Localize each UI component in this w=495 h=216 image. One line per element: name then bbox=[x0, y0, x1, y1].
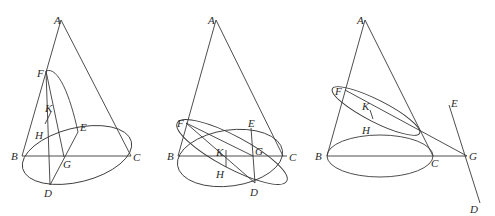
label-F: F bbox=[36, 67, 44, 79]
label-D: D bbox=[43, 187, 52, 199]
label-D: D bbox=[249, 186, 258, 198]
section-ellipse bbox=[170, 109, 295, 195]
label-G: G bbox=[255, 145, 263, 157]
label-F: F bbox=[334, 85, 342, 97]
label-E: E bbox=[450, 97, 458, 109]
label-E: E bbox=[79, 121, 87, 133]
label-C: C bbox=[133, 151, 141, 163]
label-E: E bbox=[247, 117, 255, 129]
label-C: C bbox=[289, 151, 297, 163]
cone-side-AC bbox=[365, 20, 433, 156]
label-D: D bbox=[469, 203, 478, 215]
segment-K bbox=[370, 110, 373, 119]
panel-2-ellipse: A B C D E F G H K bbox=[167, 14, 297, 198]
label-B: B bbox=[11, 150, 18, 162]
label-H: H bbox=[361, 124, 371, 136]
conic-sections-figure: A B C D E F G H K A B C D E F G H K bbox=[0, 0, 495, 216]
label-B: B bbox=[167, 150, 174, 162]
label-H: H bbox=[215, 168, 225, 180]
cone-side-AC bbox=[216, 20, 283, 156]
panel-3-external-line: A B C D E F G H K bbox=[315, 14, 480, 215]
label-C: C bbox=[431, 157, 439, 169]
cone-side-AC bbox=[61, 20, 131, 156]
label-B: B bbox=[315, 150, 322, 162]
label-H: H bbox=[34, 129, 44, 141]
label-A: A bbox=[356, 14, 364, 26]
label-A: A bbox=[207, 14, 215, 26]
label-F: F bbox=[176, 117, 184, 129]
label-G: G bbox=[469, 150, 477, 162]
cone-side-AB bbox=[178, 20, 216, 156]
label-K: K bbox=[215, 146, 224, 158]
label-A: A bbox=[53, 14, 61, 26]
label-K: K bbox=[44, 102, 53, 114]
label-G: G bbox=[63, 158, 71, 170]
label-K: K bbox=[361, 100, 370, 112]
panel-1-parabola: A B C D E F G H K bbox=[11, 14, 141, 199]
